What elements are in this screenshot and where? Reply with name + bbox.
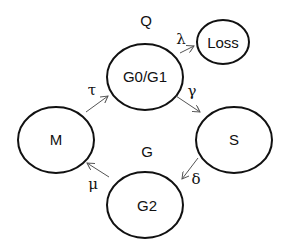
cell-cycle-diagram: Q G G0/G1 Loss M S G2 λ	[0, 0, 285, 248]
edge-g0g1-to-s: γ	[176, 82, 200, 112]
edge-label-gamma: γ	[188, 82, 197, 100]
edge-label-tau: τ	[88, 81, 96, 99]
diagram-svg: Q G G0/G1 Loss M S G2 λ	[0, 0, 285, 248]
node-loss: Loss	[197, 20, 249, 64]
node-m-label: M	[50, 131, 63, 148]
node-g0g1: G0/G1	[107, 44, 183, 110]
node-m: M	[18, 107, 94, 173]
node-loss-label: Loss	[207, 34, 239, 51]
node-s-label: S	[229, 131, 239, 148]
edge-g2-to-m: μ	[87, 163, 109, 193]
node-g0g1-label: G0/G1	[123, 68, 167, 85]
edge-m-to-g0g1: τ	[86, 81, 108, 112]
edge-label-delta: δ	[191, 170, 200, 188]
edge-g0g1-to-loss: λ	[176, 30, 194, 53]
edge-s-to-g2: δ	[182, 158, 201, 188]
node-g2-label: G2	[137, 197, 157, 214]
node-s: S	[196, 107, 272, 173]
edge-label-lambda: λ	[176, 30, 186, 48]
group-label-q: Q	[140, 12, 152, 29]
edge-label-mu: μ	[88, 175, 98, 193]
group-label-g: G	[141, 143, 153, 160]
node-g2: G2	[107, 172, 183, 238]
